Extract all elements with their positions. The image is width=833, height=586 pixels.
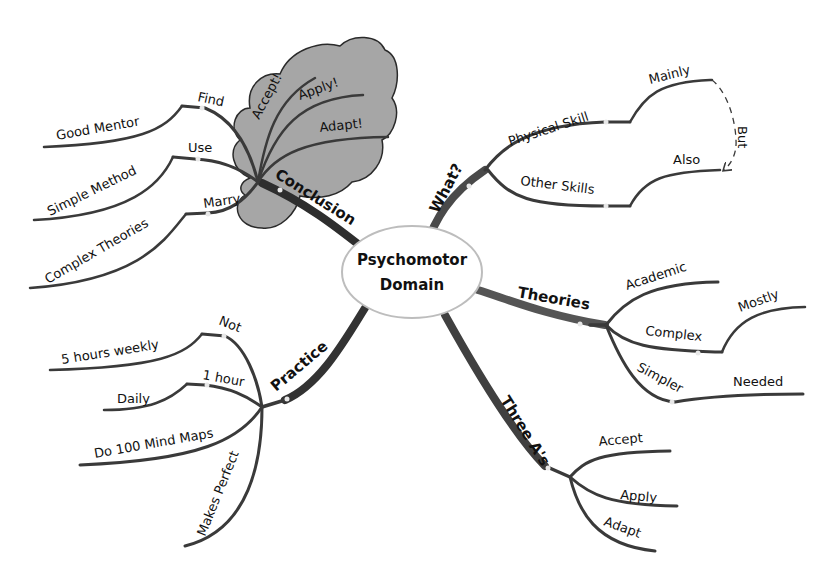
central-topic-line1: Psychomotor xyxy=(357,251,468,269)
mind-map-canvas: Psychomotor Domain What? Physical Skill … xyxy=(0,0,833,586)
branch-mainly[interactable] xyxy=(630,80,712,122)
label-marry[interactable]: Marry xyxy=(202,191,241,211)
branch-accept[interactable] xyxy=(570,451,670,477)
node-dot xyxy=(205,383,210,388)
label-other-skills[interactable]: Other Skills xyxy=(520,173,596,197)
branch-also[interactable] xyxy=(630,170,720,206)
label-simple-method[interactable]: Simple Method xyxy=(45,163,139,219)
label-academic[interactable]: Academic xyxy=(623,259,688,293)
branch-mostly[interactable] xyxy=(722,307,805,352)
label-makes-perfect[interactable]: Makes Perfect xyxy=(194,448,242,538)
node-dot xyxy=(546,466,551,471)
central-topic[interactable]: Psychomotor Domain xyxy=(342,226,482,318)
label-do-100-mind-maps[interactable]: Do 100 Mind Maps xyxy=(93,425,215,461)
label-three-as[interactable]: Three A's xyxy=(497,393,554,470)
label-use[interactable]: Use xyxy=(188,140,212,155)
label-apply[interactable]: Apply xyxy=(620,487,658,505)
node-dot xyxy=(206,212,211,217)
label-needed[interactable]: Needed xyxy=(733,374,783,389)
branch-practice-hub xyxy=(262,400,285,407)
node-dot xyxy=(196,157,201,162)
node-dot xyxy=(670,400,675,405)
branch-1-hour[interactable] xyxy=(187,384,262,407)
node-dot xyxy=(222,334,227,339)
label-also[interactable]: Also xyxy=(673,152,700,167)
label-but: But xyxy=(735,126,750,148)
node-dot xyxy=(200,106,205,111)
node-dot xyxy=(278,188,283,193)
label-physical-skill[interactable]: Physical Skill xyxy=(506,109,590,149)
label-accept[interactable]: Accept xyxy=(598,430,643,449)
node-dot xyxy=(696,351,701,356)
label-daily[interactable]: Daily xyxy=(117,391,150,406)
relationship-but-arrow[interactable] xyxy=(712,80,736,170)
node-dot xyxy=(604,204,609,209)
central-topic-line2: Domain xyxy=(380,276,444,294)
label-simpler[interactable]: Simpler xyxy=(635,359,687,396)
branch-academic[interactable] xyxy=(606,282,718,325)
node-dot xyxy=(604,120,609,125)
node-dot xyxy=(467,184,472,189)
branch-simpler[interactable] xyxy=(606,325,803,402)
label-not[interactable]: Not xyxy=(217,313,244,335)
label-complex[interactable]: Complex xyxy=(645,323,704,344)
node-dot xyxy=(285,397,290,402)
node-dot xyxy=(578,322,583,327)
